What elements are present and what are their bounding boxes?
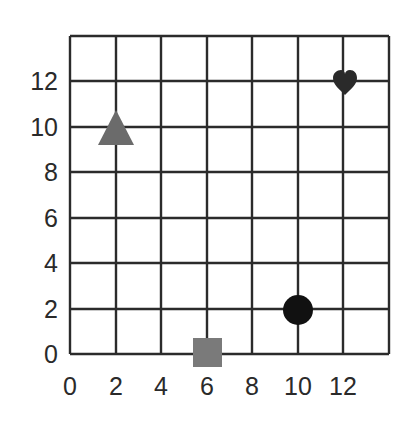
x-tick-label: 12 (329, 372, 357, 400)
y-tick-label: 2 (44, 295, 58, 323)
y-tick-label: 10 (30, 113, 58, 141)
y-tick-label: 8 (44, 158, 58, 186)
x-axis-labels: 0 2 4 6 8 10 12 (63, 372, 357, 400)
y-tick-label: 6 (44, 204, 58, 232)
heart-icon (333, 70, 357, 95)
y-tick-label: 4 (44, 249, 58, 277)
coordinate-grid-figure: 0 2 4 6 8 10 12 0 2 4 6 8 10 12 (0, 0, 414, 427)
x-tick-label: 4 (154, 372, 168, 400)
y-tick-label: 0 (44, 340, 58, 368)
x-tick-label: 8 (245, 372, 259, 400)
y-tick-label: 12 (30, 67, 58, 95)
circle-icon (283, 295, 313, 325)
x-tick-label: 2 (109, 372, 123, 400)
x-tick-label: 0 (63, 372, 77, 400)
x-tick-label: 6 (200, 372, 214, 400)
y-axis-labels: 0 2 4 6 8 10 12 (30, 67, 58, 368)
x-tick-label: 10 (284, 372, 312, 400)
square-icon (193, 338, 222, 367)
